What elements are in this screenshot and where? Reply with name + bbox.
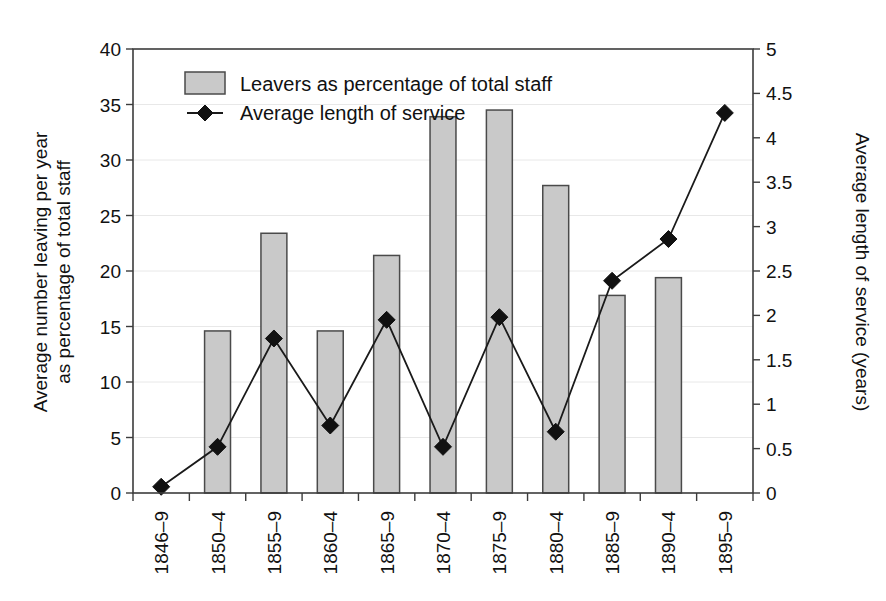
bar-1855–9 (261, 233, 287, 493)
left-tick-label-10: 10 (100, 372, 121, 393)
left-tick-label-40: 40 (100, 39, 121, 60)
left-tick-label-20: 20 (100, 261, 121, 282)
bar-1885–9 (599, 295, 625, 493)
x-tick-label-1846–9: 1846–9 (151, 511, 172, 574)
x-tick-label-1865–9: 1865–9 (377, 511, 398, 574)
bar-1880–4 (543, 186, 569, 493)
x-tick-label-1875–9: 1875–9 (489, 511, 510, 574)
right-tick-label-1.5: 1.5 (766, 350, 792, 371)
x-tick-label-1850–4: 1850–4 (208, 511, 229, 575)
x-tick-label-1885–9: 1885–9 (602, 511, 623, 574)
left-axis-title-line1: Average number leaving per year (30, 131, 51, 412)
right-tick-label-1: 1 (766, 394, 777, 415)
legend-swatch-bar (185, 72, 225, 94)
left-tick-label-30: 30 (100, 150, 121, 171)
x-tick-label-1870–4: 1870–4 (433, 511, 454, 575)
bar-1870–4 (430, 117, 456, 493)
chart-figure: 0510152025303540 00.511.522.533.544.55 1… (0, 0, 886, 601)
right-tick-label-0: 0 (766, 483, 777, 504)
bar-1850–4 (205, 331, 231, 493)
right-tick-label-4.5: 4.5 (766, 83, 792, 104)
bar-1865–9 (374, 255, 400, 493)
legend-label-bar: Leavers as percentage of total staff (240, 73, 552, 95)
right-tick-label-5: 5 (766, 39, 777, 60)
left-tick-label-35: 35 (100, 95, 121, 116)
right-tick-label-0.5: 0.5 (766, 439, 792, 460)
x-tick-label-1855–9: 1855–9 (264, 511, 285, 574)
right-tick-label-3: 3 (766, 217, 777, 238)
left-tick-label-5: 5 (110, 428, 121, 449)
left-axis-title-line2: as percentage of total staff (53, 159, 74, 383)
bar-1890–4 (655, 278, 681, 493)
left-tick-label-0: 0 (110, 483, 121, 504)
right-tick-label-2.5: 2.5 (766, 261, 792, 282)
right-axis-title: Average length of service (years) (852, 133, 873, 411)
right-tick-label-3.5: 3.5 (766, 172, 792, 193)
x-tick-label-1890–4: 1890–4 (658, 511, 679, 575)
x-tick-label-1895–9: 1895–9 (715, 511, 736, 574)
bar-1875–9 (486, 110, 512, 493)
right-tick-label-2: 2 (766, 305, 777, 326)
legend-label-line: Average length of service (240, 102, 465, 124)
x-tick-label-1880–4: 1880–4 (546, 511, 567, 575)
left-tick-label-15: 15 (100, 317, 121, 338)
left-tick-label-25: 25 (100, 206, 121, 227)
right-tick-label-4: 4 (766, 128, 777, 149)
dual-axis-chart: 0510152025303540 00.511.522.533.544.55 1… (0, 0, 886, 601)
x-tick-label-1860–4: 1860–4 (320, 511, 341, 575)
